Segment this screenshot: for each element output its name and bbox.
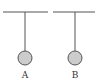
pendulum-a: A — [3, 12, 48, 80]
pendulum-b: B — [53, 12, 95, 80]
label-b: B — [72, 70, 79, 80]
pendulum-diagram: A B — [0, 0, 102, 83]
ball-b — [68, 51, 82, 65]
label-a: A — [21, 70, 29, 80]
ball-a — [18, 51, 32, 65]
